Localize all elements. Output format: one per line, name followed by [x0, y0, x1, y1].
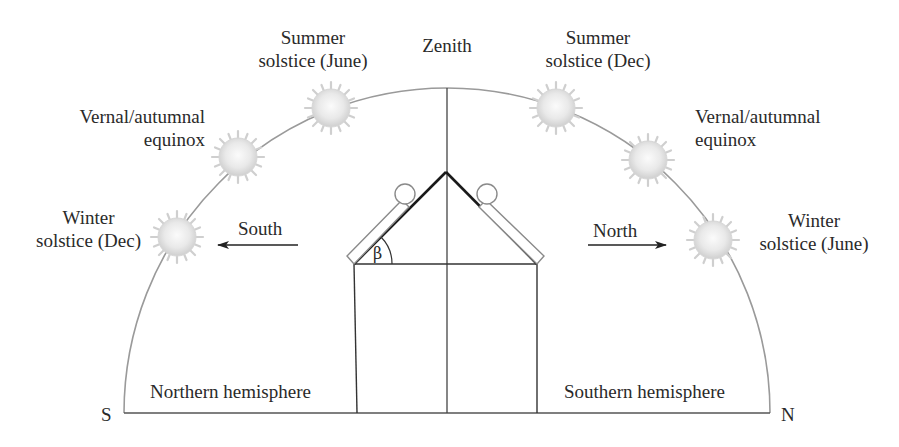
sun-summer-solstice-june-icon: [305, 82, 357, 134]
label-north: North: [593, 219, 637, 242]
label-equinox-right-line1: Vernal/autumnal: [695, 105, 865, 128]
label-winter-june-line2: solstice (June): [748, 232, 880, 255]
tilt-angle-label: β: [373, 244, 382, 263]
sun-summer-solstice-dec-icon: [530, 82, 582, 134]
label-equinox-left: Vernal/autumnal equinox: [40, 105, 205, 151]
label-winter-solstice-june: Winter solstice (June): [748, 209, 880, 255]
label-northern-hemisphere: Northern hemisphere: [150, 380, 311, 403]
house: [354, 264, 537, 413]
label-equinox-left-line1: Vernal/autumnal: [40, 105, 205, 128]
label-summer-solstice-june: Summer solstice (June): [248, 26, 378, 72]
label-winter-june-line1: Winter: [748, 209, 880, 232]
label-equinox-left-line2: equinox: [40, 128, 205, 151]
label-southern-hemisphere: Southern hemisphere: [564, 380, 725, 403]
sun-equinox-left-icon: [212, 131, 264, 183]
label-summer-solstice-dec: Summer solstice (Dec): [538, 26, 658, 72]
sun-equinox-right-icon: [622, 134, 674, 186]
label-equinox-right: Vernal/autumnal equinox: [695, 105, 865, 151]
sun-winter-solstice-dec-icon: [151, 211, 203, 263]
solar-collector-right: [477, 184, 544, 264]
label-winter-dec-line2: solstice (Dec): [26, 229, 151, 252]
label-s-marker: S: [101, 403, 112, 426]
label-winter-dec-line1: Winter: [26, 206, 151, 229]
label-zenith: Zenith: [405, 34, 489, 57]
label-summer-dec-line1: Summer: [538, 26, 658, 49]
label-winter-solstice-dec: Winter solstice (Dec): [26, 206, 151, 252]
collector-tank-left: [395, 184, 415, 204]
collector-tank-right: [477, 184, 497, 204]
label-south: South: [238, 217, 282, 240]
label-summer-june-line2: solstice (June): [248, 49, 378, 72]
tilt-angle-arc: [381, 237, 392, 264]
label-equinox-right-line2: equinox: [695, 128, 865, 151]
label-summer-june-line1: Summer: [248, 26, 378, 49]
label-summer-dec-line2: solstice (Dec): [538, 49, 658, 72]
sun-winter-solstice-june-icon: [687, 214, 739, 266]
label-n-marker: N: [781, 403, 795, 426]
